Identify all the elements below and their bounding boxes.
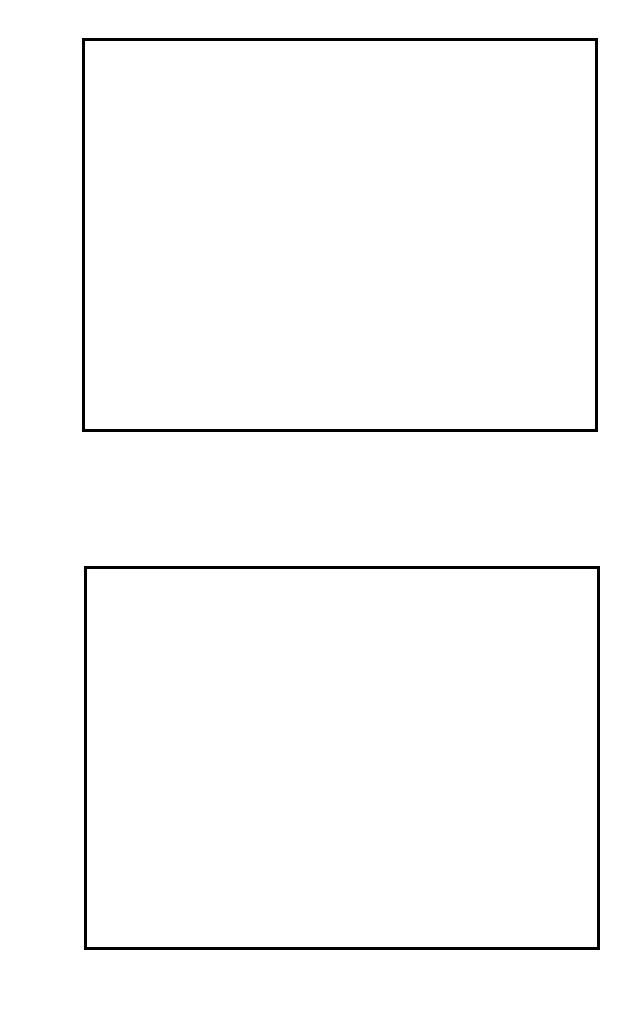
- figure-container: [0, 0, 635, 1028]
- zone-annotation-a: [92, 46, 264, 62]
- chart-panel-replacement-rate: [84, 566, 600, 950]
- zone-annotation-b: [272, 46, 432, 62]
- zone-annotation-c: [444, 46, 594, 62]
- chart-panel-beetle-death-rate: [82, 38, 598, 432]
